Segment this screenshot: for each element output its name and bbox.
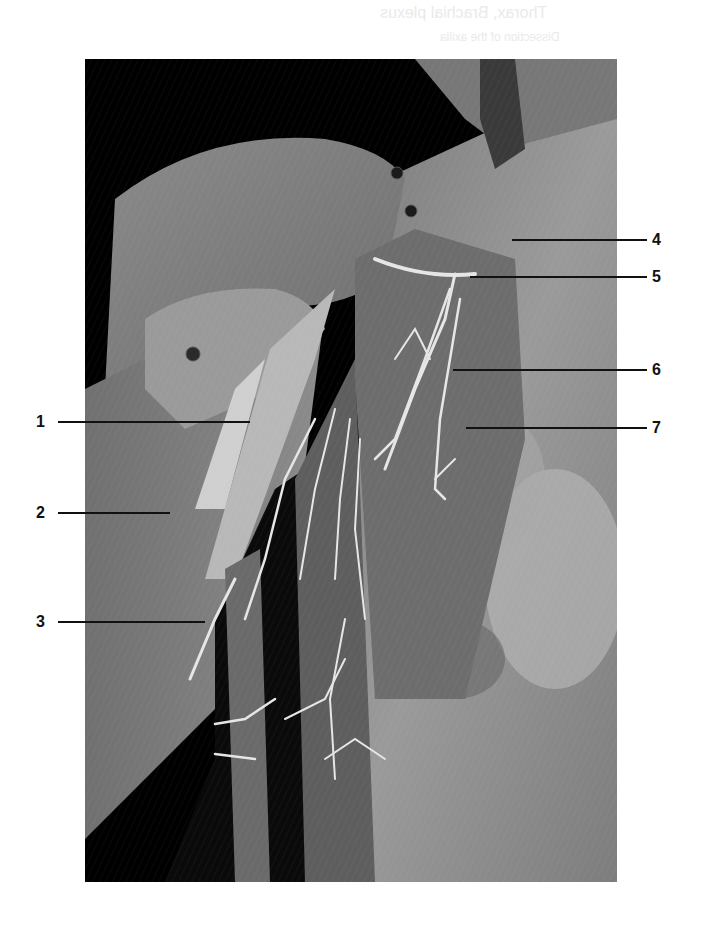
- label-5: 5: [652, 269, 661, 285]
- leader-line-6: [453, 369, 647, 371]
- label-3: 3: [36, 614, 45, 630]
- bleed-through-subtitle: Dissection of the axilla: [440, 30, 559, 44]
- leader-line-7: [466, 427, 647, 429]
- leader-line-3: [58, 621, 205, 623]
- pin-3: [186, 347, 200, 361]
- label-7: 7: [652, 420, 661, 436]
- label-4: 4: [652, 232, 661, 248]
- leader-line-1: [58, 421, 250, 423]
- leader-line-2: [58, 512, 170, 514]
- bleed-through-title: Thorax, Brachial plexus: [380, 4, 547, 22]
- label-2: 2: [36, 505, 45, 521]
- leader-line-5: [470, 276, 647, 278]
- anatomical-photo: [85, 59, 617, 882]
- pin-1: [391, 167, 403, 179]
- label-6: 6: [652, 362, 661, 378]
- pin-2: [405, 205, 417, 217]
- dissection-illustration: [85, 59, 617, 882]
- leader-line-4: [512, 239, 647, 241]
- label-1: 1: [36, 414, 45, 430]
